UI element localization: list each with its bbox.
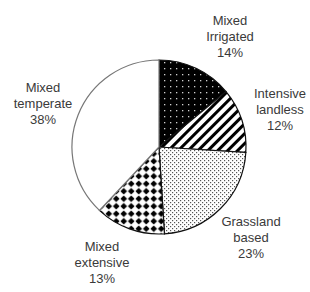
label-mixed-temperate: Mixed temperate 38% <box>14 80 73 128</box>
label-line: based <box>221 230 280 246</box>
label-line: Mixed <box>206 13 254 29</box>
label-value: 13% <box>75 271 130 287</box>
label-mixed-irrigated: Mixed Irrigated 14% <box>206 13 254 61</box>
label-line: landless <box>254 102 306 118</box>
label-intensive-landless: Intensive landless 12% <box>254 86 306 134</box>
label-value: 12% <box>254 118 306 134</box>
label-line: extensive <box>75 255 130 271</box>
label-line: Mixed <box>14 80 73 96</box>
label-line: Irrigated <box>206 29 254 45</box>
label-value: 23% <box>221 246 280 262</box>
label-line: Grassland <box>221 214 280 230</box>
label-value: 14% <box>206 45 254 61</box>
label-line: Intensive <box>254 86 306 102</box>
label-mixed-extensive: Mixed extensive 13% <box>75 239 130 287</box>
label-line: Mixed <box>75 239 130 255</box>
label-grassland-based: Grassland based 23% <box>221 214 280 262</box>
pie-slices <box>72 60 246 234</box>
label-value: 38% <box>14 112 73 128</box>
label-line: temperate <box>14 96 73 112</box>
